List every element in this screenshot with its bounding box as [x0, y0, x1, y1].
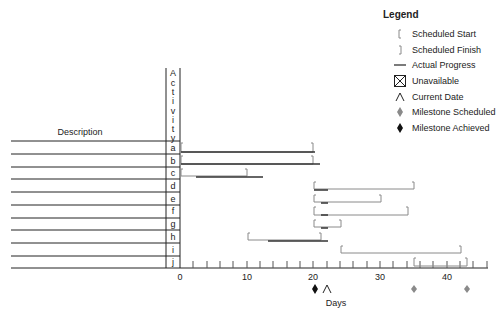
schedule-bars	[181, 143, 467, 266]
bar-b	[181, 156, 320, 164]
x-axis-ticks	[193, 261, 487, 268]
bar-a	[181, 143, 315, 152]
svg-text:30: 30	[375, 272, 385, 282]
row-lines	[11, 141, 180, 268]
row-label-c: c	[171, 168, 176, 178]
milestone-achieved-icon	[312, 284, 318, 294]
legend-item-milestone-achieved: Milestone Achieved	[394, 122, 490, 134]
legend-item-current-date: Current Date	[394, 91, 464, 103]
svg-text:40: 40	[442, 272, 452, 282]
activity-header: A c t i v i t y	[170, 68, 176, 143]
bar-f	[314, 207, 408, 215]
legend-item-scheduled-start: Scheduled Start	[394, 28, 476, 40]
svg-text:0: 0	[177, 272, 182, 282]
row-label-i: i	[172, 245, 174, 255]
svg-text:A: A	[170, 68, 176, 78]
svg-text:i: i	[172, 96, 174, 106]
bar-c	[181, 169, 263, 177]
row-label-f: f	[172, 206, 175, 216]
scheduled-start-icon	[394, 28, 408, 40]
row-label-j: j	[171, 257, 174, 267]
legend-item-scheduled-finish: Scheduled Finish	[394, 44, 481, 56]
milestone-achieved-icon	[394, 122, 408, 134]
current-date-icon	[394, 91, 408, 103]
row-label-g: g	[170, 219, 175, 229]
legend-item-milestone-scheduled: Milestone Scheduled	[394, 106, 496, 118]
milestone-scheduled-icon	[394, 106, 408, 118]
legend-item-unavailable: Unavailable	[394, 75, 459, 87]
milestone-scheduled-icon	[464, 285, 470, 293]
legend-title: Legend	[383, 9, 419, 20]
x-tick-labels: 0 10 20 30 40	[177, 272, 452, 282]
x-axis-title: Days	[326, 298, 347, 308]
markers	[312, 284, 470, 294]
svg-text:10: 10	[242, 272, 252, 282]
bar-d	[314, 182, 414, 190]
row-label-a: a	[170, 143, 175, 153]
scheduled-finish-icon	[394, 44, 408, 56]
unavailable-icon	[394, 75, 408, 87]
bar-h	[248, 233, 328, 241]
bar-j	[414, 258, 467, 266]
row-label-e: e	[170, 194, 175, 204]
svg-text:20: 20	[308, 272, 318, 282]
current-date-icon	[323, 285, 331, 293]
description-header: Description	[57, 127, 102, 137]
bar-e	[314, 195, 381, 203]
bar-g	[314, 220, 341, 228]
row-label-d: d	[170, 181, 175, 191]
milestone-scheduled-icon	[411, 285, 417, 293]
bar-i	[341, 246, 461, 253]
row-label-h: h	[170, 232, 175, 242]
row-label-b: b	[170, 156, 175, 166]
legend-item-actual-progress: Actual Progress	[394, 59, 476, 71]
actual-progress-icon	[394, 59, 408, 71]
